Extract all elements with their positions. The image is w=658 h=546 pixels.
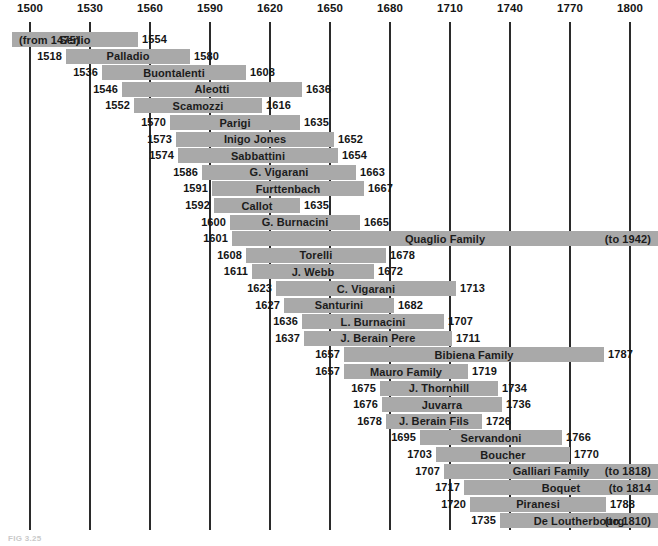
timeline-end-label: 1636	[302, 83, 331, 95]
timeline-bar[interactable]: Serlio(from 1475)	[12, 32, 138, 47]
timeline-start-label: 1600	[201, 216, 230, 228]
timeline-bar[interactable]: Torelli	[246, 248, 386, 263]
timeline-bar-label: Inigo Jones	[220, 133, 290, 145]
timeline-start-label: 1657	[315, 365, 344, 377]
timeline-bar[interactable]: Boucher	[436, 447, 570, 462]
timeline-end-label: (to 1810)	[601, 515, 655, 527]
timeline-bar-label: Parigi	[215, 117, 254, 129]
timeline-bar-label: J. Berain Fils	[395, 415, 473, 427]
timeline-end-label: 1770	[570, 448, 599, 460]
timeline-end-label: 1608	[246, 66, 275, 78]
timeline-bar[interactable]: Quaglio Family(to 1942)	[232, 231, 658, 246]
timeline-start-label: 1627	[255, 299, 284, 311]
timeline-bar[interactable]: Scamozzi	[134, 98, 262, 113]
timeline-bar-label: Mauro Family	[366, 366, 446, 378]
timeline-end-label: 1667	[364, 182, 393, 194]
timeline-start-label: 1717	[435, 481, 464, 493]
timeline-start-label: 1591	[183, 182, 212, 194]
timeline-bar[interactable]: G. Vigarani	[202, 165, 356, 180]
timeline-end-label: 1654	[338, 149, 367, 161]
timeline-start-label: 1608	[217, 249, 246, 261]
timeline-bar[interactable]: J. Thornhill	[380, 381, 498, 396]
timeline-bar-label: Piranesi	[512, 498, 564, 510]
timeline-bar-label: Santurini	[311, 299, 368, 311]
timeline-start-label: 1695	[391, 431, 420, 443]
timeline-bar-label: Aleotti	[191, 83, 234, 95]
timeline-start-label: 1570	[141, 116, 170, 128]
timeline-end-label: 1665	[360, 216, 389, 228]
timeline-bar-label: Sabbattini	[227, 150, 289, 162]
timeline-bar[interactable]: Boquet(to 1814	[464, 480, 658, 495]
timeline-bar[interactable]: Mauro Family	[344, 364, 468, 379]
timeline-end-label: 1788	[606, 498, 635, 510]
timeline-bar[interactable]: J. Webb	[252, 264, 374, 279]
timeline-bar-label: Furttenbach	[252, 183, 325, 195]
timeline-bar[interactable]: Callot	[214, 198, 300, 213]
timeline-bar[interactable]: Bibiena Family	[344, 347, 604, 362]
timeline-start-label: 1536	[73, 66, 102, 78]
timeline-end-label: 1663	[356, 166, 385, 178]
timeline-end-label: 1734	[498, 382, 527, 394]
timeline-end-label: 1635	[300, 199, 329, 211]
timeline-bar[interactable]: Galliari Family(to 1818)	[444, 464, 658, 479]
timeline-bar-label: Palladio	[103, 50, 154, 62]
timeline-start-label: 1552	[105, 99, 134, 111]
timeline-end-label: 1554	[138, 33, 167, 45]
timeline-bar[interactable]: J. Berain Pere	[304, 331, 452, 346]
timeline-end-label: 1672	[374, 265, 403, 277]
timeline-bar-label: Boucher	[476, 449, 529, 461]
timeline-start-label: 1703	[407, 448, 436, 460]
timeline-bar[interactable]: J. Berain Fils	[386, 414, 482, 429]
timeline-end-label: 1711	[452, 332, 480, 344]
timeline-bar-label: Quaglio Family	[401, 233, 489, 245]
timeline-bar-label: J. Webb	[288, 266, 339, 278]
timeline-end-label: (to 1818)	[601, 465, 655, 477]
timeline-bar[interactable]: Furttenbach	[212, 181, 364, 196]
timeline-bar[interactable]: Parigi	[170, 115, 300, 130]
timeline-start-label: 1611	[224, 265, 252, 277]
timeline-start-label: 1735	[471, 514, 500, 526]
timeline-bar[interactable]: De Loutherbourg(to 1810)	[500, 513, 658, 528]
timeline-start-label: 1678	[357, 415, 386, 427]
timeline-bar[interactable]: Servandoni	[420, 430, 562, 445]
timeline-rows: 1554Serlio(from 1475)15181580Palladio153…	[0, 0, 658, 546]
timeline-bar[interactable]: Sabbattini	[178, 148, 338, 163]
timeline-bar-label: Buontalenti	[139, 67, 209, 79]
timeline-bar-label: Callot	[237, 200, 276, 212]
timeline-bar-label: J. Berain Pere	[337, 332, 420, 344]
timeline-bar[interactable]: L. Burnacini	[302, 314, 444, 329]
timeline-bar-label: G. Burnacini	[258, 216, 333, 228]
timeline-end-label: 1580	[190, 50, 219, 62]
timeline-bar[interactable]: Palladio	[66, 49, 190, 64]
timeline-bar-label: Juvarra	[418, 399, 466, 411]
timeline-start-label: 1546	[93, 83, 122, 95]
timeline-bar[interactable]: Aleotti	[122, 82, 302, 97]
timeline-end-label: 1682	[394, 299, 423, 311]
timeline-bar-label: C. Vigarani	[333, 283, 399, 295]
timeline-bar-label: Torelli	[296, 249, 337, 261]
timeline-end-label: 1719	[468, 365, 497, 377]
timeline-start-label: 1707	[415, 465, 444, 477]
timeline-bar[interactable]: G. Burnacini	[230, 215, 360, 230]
timeline-end-label: 1787	[604, 348, 633, 360]
timeline-bar[interactable]: C. Vigarani	[276, 281, 456, 296]
timeline-start-label: (from 1475)	[15, 34, 83, 46]
timeline-start-label: 1675	[351, 382, 380, 394]
timeline-bar[interactable]: Inigo Jones	[176, 132, 334, 147]
timeline-bar[interactable]: Santurini	[284, 298, 394, 313]
timeline-end-label: (to 1942)	[601, 233, 655, 245]
timeline-bar[interactable]: Piranesi	[470, 497, 606, 512]
timeline-start-label: 1623	[247, 282, 276, 294]
timeline-start-label: 1592	[185, 199, 214, 211]
timeline-bar[interactable]: Buontalenti	[102, 65, 246, 80]
timeline-bar-label: J. Thornhill	[405, 382, 473, 394]
timeline-start-label: 1676	[353, 398, 382, 410]
timeline-bar[interactable]: Juvarra	[382, 397, 502, 412]
timeline-end-label: 1635	[300, 116, 329, 128]
timeline-start-label: 1657	[315, 348, 344, 360]
timeline-end-label: 1616	[262, 99, 291, 111]
timeline-start-label: 1601	[203, 232, 232, 244]
timeline-row[interactable]: 1735De Loutherbourg(to 1810)	[0, 512, 658, 531]
timeline-bar-label: Scamozzi	[169, 100, 228, 112]
timeline-end-label: 1726	[482, 415, 511, 427]
